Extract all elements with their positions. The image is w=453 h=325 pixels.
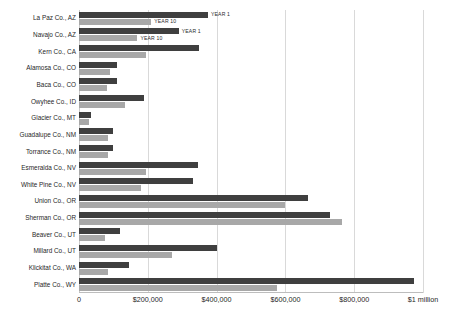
bar-year1 — [79, 112, 91, 118]
category-label: Alamosa Co., CO — [2, 64, 76, 72]
category-label: Sherman Co., OR — [2, 214, 76, 222]
category-label: Esmeralda Co., NV — [2, 164, 76, 172]
bar-row — [79, 228, 423, 241]
bar-year1 — [79, 28, 179, 34]
bar-year10 — [79, 169, 146, 175]
bar-year10 — [79, 119, 89, 125]
gridline-1000000 — [423, 10, 424, 293]
bar-year10 — [79, 35, 137, 41]
plot-area: YEAR 1YEAR 10YEAR 1YEAR 10 — [79, 10, 423, 293]
bar-year10 — [79, 19, 151, 25]
bar-year10 — [79, 85, 107, 91]
bar-annotation-year-10: YEAR 10 — [154, 18, 176, 24]
bar-row — [79, 12, 423, 25]
bar-year1 — [79, 62, 117, 68]
bar-year1 — [79, 95, 144, 101]
category-label: Kern Co., CA — [2, 48, 76, 56]
bar-year1 — [79, 128, 113, 134]
bar-row — [79, 28, 423, 41]
bar-year10 — [79, 69, 110, 75]
bar-row — [79, 245, 423, 258]
bar-row — [79, 278, 423, 291]
bar-year1 — [79, 162, 198, 168]
bar-row — [79, 128, 423, 141]
bar-row — [79, 62, 423, 75]
bar-year1 — [79, 145, 113, 151]
bar-year1 — [79, 78, 117, 84]
x-tick-label: $200,000 — [133, 295, 163, 304]
bar-year10 — [79, 235, 105, 241]
bar-year10 — [79, 52, 146, 58]
bar-year10 — [79, 219, 342, 225]
category-label: Platte Co., WY — [2, 281, 76, 289]
category-label: Glacier Co., MT — [2, 114, 76, 122]
category-label: Guadalupe Co., NM — [2, 131, 76, 139]
x-tick-label: $1 million — [408, 295, 438, 304]
bar-annotation-year-1: YEAR 1 — [211, 11, 230, 17]
bar-year1 — [79, 212, 330, 218]
category-label: Beaver Co., UT — [2, 231, 76, 239]
category-label: Torrance Co., NM — [2, 148, 76, 156]
category-label: Millard Co., UT — [2, 247, 76, 255]
bar-year10 — [79, 185, 141, 191]
bar-row — [79, 178, 423, 191]
x-axis-tick-labels: 0$200,000$400,000$600,000$800,000$1 mill… — [79, 295, 423, 309]
bar-row — [79, 78, 423, 91]
bar-year1 — [79, 262, 129, 268]
bar-year1 — [79, 278, 414, 284]
category-label: Klickitat Co., WA — [2, 264, 76, 272]
bar-row — [79, 162, 423, 175]
bar-chart: YEAR 1YEAR 10YEAR 1YEAR 10 La Paz Co., A… — [0, 0, 453, 325]
bar-year1 — [79, 195, 308, 201]
bar-year10 — [79, 269, 108, 275]
bar-year1 — [79, 12, 208, 18]
x-tick-label: $400,000 — [202, 295, 232, 304]
bar-year10 — [79, 102, 125, 108]
category-label: Owyhee Co., ID — [2, 98, 76, 106]
category-label: La Paz Co., AZ — [2, 14, 76, 22]
category-label: Navajo Co., AZ — [2, 31, 76, 39]
bar-rows: YEAR 1YEAR 10YEAR 1YEAR 10 — [79, 10, 423, 293]
bar-row — [79, 95, 423, 108]
x-tick-label: $600,000 — [270, 295, 300, 304]
category-label: Baca Co., CO — [2, 81, 76, 89]
bar-year10 — [79, 202, 285, 208]
bar-row — [79, 212, 423, 225]
category-label: White Pine Co., NV — [2, 181, 76, 189]
category-label: Union Co., OR — [2, 197, 76, 205]
bar-year10 — [79, 285, 277, 291]
bar-year10 — [79, 135, 108, 141]
bar-year10 — [79, 252, 172, 258]
bar-year1 — [79, 245, 217, 251]
bar-row — [79, 112, 423, 125]
bar-row — [79, 262, 423, 275]
bar-row — [79, 195, 423, 208]
bar-year1 — [79, 178, 193, 184]
x-tick-label: 0 — [77, 295, 81, 304]
bar-row — [79, 45, 423, 58]
x-tick-label: $800,000 — [339, 295, 369, 304]
bar-year1 — [79, 45, 199, 51]
bar-year10 — [79, 152, 108, 158]
bar-year1 — [79, 228, 120, 234]
bar-annotation-year-1: YEAR 1 — [182, 28, 201, 34]
bar-annotation-year-10: YEAR 10 — [140, 35, 162, 41]
bar-row — [79, 145, 423, 158]
